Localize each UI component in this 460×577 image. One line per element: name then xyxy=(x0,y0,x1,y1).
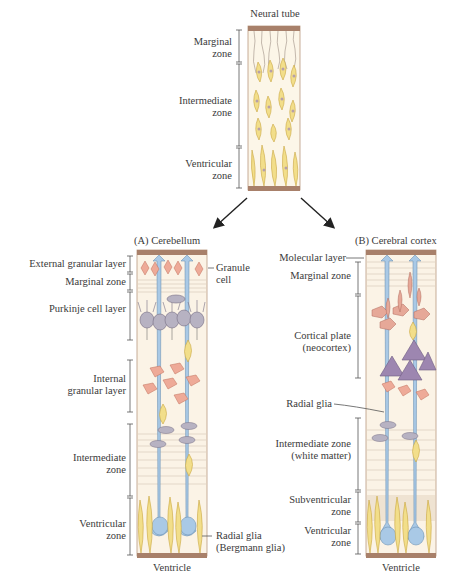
nt-ventricular-label: Ventricularzone xyxy=(150,158,232,182)
neural-tube-title: Neural tube xyxy=(240,8,310,20)
panel-a-title: (A) Cerebellum xyxy=(134,235,200,247)
neural-tube-column xyxy=(248,26,300,191)
b-ventricular-label: Ventricularzone xyxy=(250,525,351,549)
a-internal-granular-label: Internalgranular layer xyxy=(0,373,126,397)
a-ventricle-label: Ventricle xyxy=(137,562,207,574)
nt-marginal-label: Marginalzone xyxy=(150,36,232,60)
a-marginal-label: Marginal zone xyxy=(0,276,126,288)
cerebellum-column xyxy=(137,250,207,558)
panel-b-title: (B) Cerebral cortex xyxy=(355,235,437,247)
b-molecular-label: Molecular layer xyxy=(250,252,346,264)
b-cortical-plate-label: Cortical plate(neocortex) xyxy=(250,330,351,354)
b-ventricle-label: Ventricle xyxy=(366,562,436,574)
a-intermediate-label: Intermediatezone xyxy=(0,452,126,476)
b-subventricular-label: Subventricularzone xyxy=(250,494,351,518)
nt-intermediate-label: Intermediatezone xyxy=(150,95,232,119)
b-intermediate-label: Intermediate zone(white matter) xyxy=(250,438,351,462)
a-ventricular-label: Ventricularzone xyxy=(0,518,126,542)
b-radial-glia-label: Radial glia xyxy=(250,398,332,410)
diagram-artwork xyxy=(0,0,460,577)
neural-tube-brackets xyxy=(236,30,242,188)
a-external-granular-label: External granular layer xyxy=(0,258,126,270)
a-granule-cell-callout: Granulecell xyxy=(216,262,250,286)
branch-arrows xyxy=(216,198,332,226)
a-purkinje-label: Purkinje cell layer xyxy=(0,303,126,315)
cortex-column xyxy=(366,250,436,558)
b-marginal-label: Marginal zone xyxy=(250,270,351,282)
